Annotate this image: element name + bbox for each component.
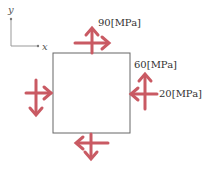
stress-element [53, 53, 130, 133]
y-axis-tip-icon [10, 18, 12, 20]
normal-stress-x-label: 20[MPa] [159, 88, 202, 99]
y-axis-label: y [7, 4, 14, 15]
top-face-arrows [75, 28, 109, 53]
bottom-face-arrows [76, 134, 108, 159]
coordinate-axes: y x [7, 4, 48, 52]
x-axis-tip-icon [37, 45, 39, 47]
x-axis-label: x [42, 41, 48, 52]
shear-stress-label: 60[MPa] [134, 59, 177, 70]
stress-element-diagram: y x 90[MPa] 60[MPa] 20[MPa] [0, 0, 209, 172]
right-face-arrows [131, 74, 157, 109]
normal-stress-y-label: 90[MPa] [98, 17, 141, 28]
left-face-arrows [26, 80, 51, 115]
